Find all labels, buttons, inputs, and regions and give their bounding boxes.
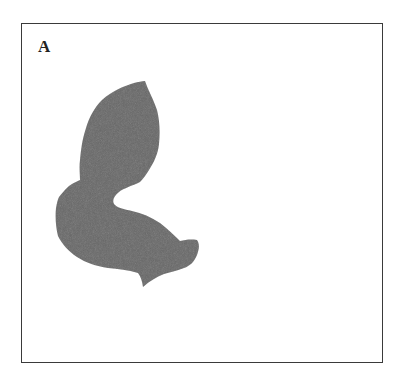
segmented-region-shape: [0, 0, 404, 376]
region-blob: [56, 81, 199, 287]
